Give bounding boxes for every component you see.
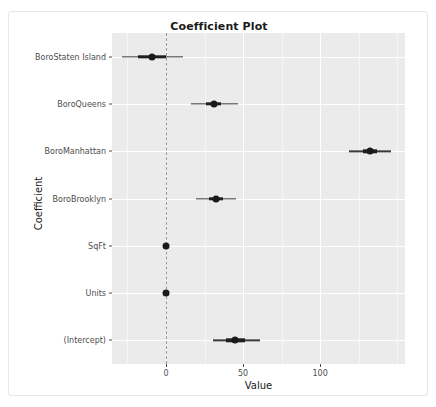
y-axis-title: Coefficient xyxy=(33,144,44,264)
page-title: Coefficient Plot xyxy=(9,20,429,33)
y-axis-tick-label: BoroStaten Island xyxy=(22,52,106,61)
zero-reference-line xyxy=(166,33,167,364)
x-axis-title: Value xyxy=(112,380,405,391)
grid-line-major-y xyxy=(112,293,405,294)
data-point[interactable] xyxy=(213,195,220,202)
x-axis-tick-mark xyxy=(166,364,167,367)
x-axis-tick-label: 100 xyxy=(313,369,328,378)
y-axis-tick-label: (Intercept) xyxy=(22,336,106,345)
y-axis-tick-label: Units xyxy=(22,289,106,298)
data-point[interactable] xyxy=(162,242,169,249)
grid-line-major-y xyxy=(112,199,405,200)
grid-line-major-y xyxy=(112,246,405,247)
data-point[interactable] xyxy=(232,337,239,344)
x-axis-tick-mark xyxy=(320,364,321,367)
data-point[interactable] xyxy=(367,148,374,155)
data-point[interactable] xyxy=(162,290,169,297)
screenshot-root: Coefficient Plot BoroStaten IslandBoroQu… xyxy=(0,0,436,407)
y-axis-tick-label: BoroQueens xyxy=(22,99,106,108)
plot-card: Coefficient Plot BoroStaten IslandBoroQu… xyxy=(8,11,428,396)
x-axis-tick-label: 0 xyxy=(163,369,168,378)
data-point[interactable] xyxy=(149,53,156,60)
data-point[interactable] xyxy=(210,100,217,107)
x-axis-tick-label: 50 xyxy=(238,369,248,378)
x-axis-tick-mark xyxy=(243,364,244,367)
plot-panel xyxy=(112,33,405,364)
grid-line-major-y xyxy=(112,104,405,105)
